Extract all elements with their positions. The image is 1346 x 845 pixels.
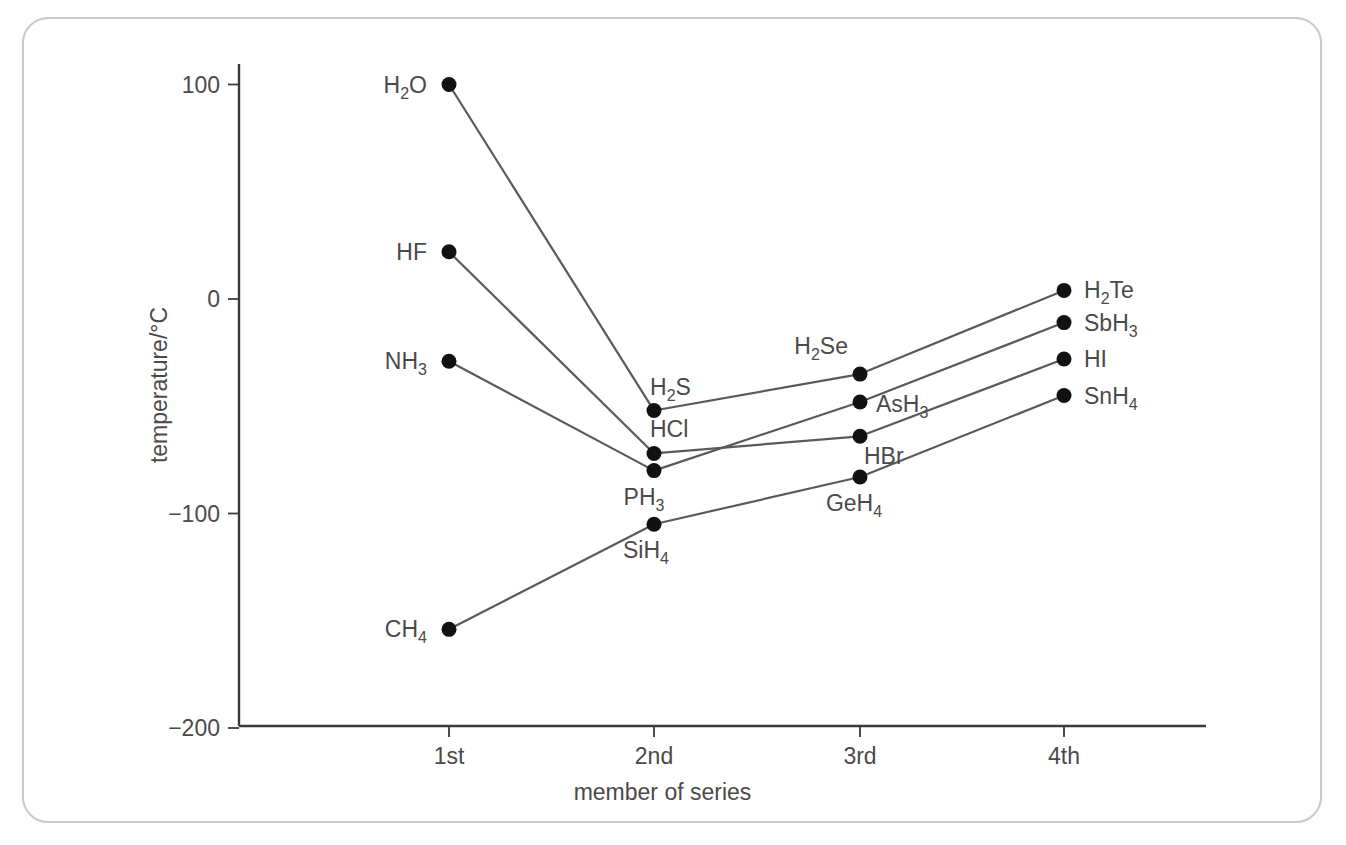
y-axis-tick-label: −100 <box>168 501 220 527</box>
data-point-label: HI <box>1084 346 1107 372</box>
data-point-label: GeH4 <box>826 490 882 520</box>
data-point-label: H2Te <box>1084 277 1134 307</box>
data-point-marker <box>1057 283 1072 298</box>
data-point-marker <box>1057 352 1072 367</box>
data-point-marker <box>853 470 868 485</box>
series-line <box>449 252 1064 454</box>
data-point-marker <box>442 77 457 92</box>
x-axis-tick-label: 2nd <box>635 743 673 769</box>
y-axis-title: temperature/°C <box>146 307 172 463</box>
data-point-label: CH4 <box>385 616 427 646</box>
data-point-marker <box>442 244 457 259</box>
data-point-marker <box>1057 315 1072 330</box>
data-point-label: AsH3 <box>876 391 928 421</box>
chart-series <box>442 77 1072 637</box>
data-point-label: SnH4 <box>1084 383 1138 413</box>
series-line <box>449 396 1064 630</box>
y-axis-tick-label: 100 <box>182 72 220 98</box>
data-point-label: H2S <box>650 374 691 404</box>
data-point-label: HF <box>396 239 427 265</box>
figure-border: 1000−100−2001st2nd3rd4th H2OH2SH2SeH2TeH… <box>22 17 1322 823</box>
y-axis-tick-label: −200 <box>168 715 220 741</box>
data-point-label: SbH3 <box>1084 310 1138 340</box>
boiling-point-line-chart: 1000−100−2001st2nd3rd4th H2OH2SH2SeH2TeH… <box>24 19 1324 825</box>
data-point-marker <box>647 463 662 478</box>
figure-page: 1000−100−2001st2nd3rd4th H2OH2SH2SeH2TeH… <box>0 0 1346 845</box>
series-line <box>449 85 1064 411</box>
data-point-label: H2O <box>384 72 427 102</box>
data-point-label: HBr <box>864 443 904 469</box>
data-point-marker <box>853 367 868 382</box>
x-axis-tick-label: 3rd <box>843 743 876 769</box>
data-point-marker <box>647 517 662 532</box>
y-axis-tick-label: 0 <box>207 286 220 312</box>
data-point-marker <box>442 622 457 637</box>
data-point-marker <box>1057 388 1072 403</box>
x-axis-tick-label: 1st <box>434 743 465 769</box>
data-point-marker <box>442 354 457 369</box>
x-axis-title: member of series <box>574 779 752 805</box>
data-point-label: PH3 <box>624 484 665 514</box>
data-point-label: SiH4 <box>623 537 669 567</box>
data-point-marker <box>647 446 662 461</box>
x-axis-tick-label: 4th <box>1048 743 1080 769</box>
data-point-label: NH3 <box>385 348 427 378</box>
series-line <box>449 323 1064 471</box>
data-point-marker <box>853 394 868 409</box>
data-point-label: H2Se <box>794 333 848 363</box>
data-point-label: HCl <box>650 416 688 442</box>
chart-point-labels: H2OH2SH2SeH2TeHFHClHBrHINH3PH3AsH3SbH3CH… <box>384 72 1138 647</box>
data-point-marker <box>853 429 868 444</box>
